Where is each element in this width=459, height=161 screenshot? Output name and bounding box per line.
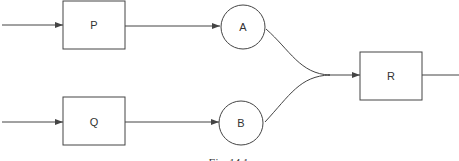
node-a-label: A <box>239 21 247 33</box>
node-r: R <box>360 52 422 100</box>
node-p-label: P <box>90 19 97 31</box>
flow-diagram: P A Q B R Fig. 14.1 <box>0 0 459 161</box>
node-p: P <box>63 1 125 49</box>
node-a: A <box>221 5 265 49</box>
node-b-label: B <box>237 117 244 129</box>
node-q-label: Q <box>90 116 99 128</box>
node-q: Q <box>63 97 125 145</box>
node-b: B <box>219 101 263 145</box>
node-r-label: R <box>387 70 395 82</box>
figure-caption: Fig. 14.1 <box>207 156 248 161</box>
edge-b-r <box>265 75 330 122</box>
edge-a-r <box>266 29 330 75</box>
